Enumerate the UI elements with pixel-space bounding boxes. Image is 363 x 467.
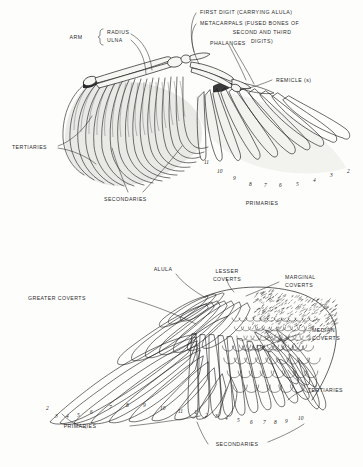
label-metacarpals-line2: SECOND AND THIRD [233,29,292,35]
figure-page: ARM RADIUS ULNA FIRST DIGIT (CARRYING AL… [0,0,363,467]
label-metacarpals-line1: METACARPALS (FUSED BONES OF [200,20,299,26]
secondary-number: 10 [298,415,304,421]
primary-number: 11 [178,408,183,414]
label-marginal-coverts-line1: MARGINAL [285,274,316,280]
primary-number: 10 [217,168,223,174]
label-phalanges: PHALANGES [210,40,246,46]
primary-number: 3 [329,172,333,178]
primary-number: 9 [233,175,236,181]
label-remicle: REMICLE (s) [276,77,312,83]
primary-number: 4 [66,413,69,419]
lower-primary-numbers: 2 3 4 5 6 7 8 9 10 11 [46,402,183,419]
label-secondaries-lower: SECONDARIES [216,441,259,447]
primary-number: 9 [143,402,146,408]
primary-number: 2 [347,168,350,174]
primary-number: 2 [46,405,49,411]
label-lesser-coverts-line1: LESSER [215,268,238,274]
label-alula: ALULA [154,266,173,272]
label-lesser-coverts-line2: COVERTS [213,276,241,282]
secondary-number: 3 [214,413,218,419]
secondary-number: 8 [274,419,277,425]
secondary-number: 6 [250,419,253,425]
label-secondaries-upper: SECONDARIES [104,196,147,202]
label-primaries-upper: PRIMARIES [246,200,279,206]
primary-number: 5 [77,412,80,418]
label-metacarpals-line3: DIGITS) [251,38,273,44]
secondary-number: 2 [205,412,208,418]
label-ulna: ULNA [107,37,123,43]
label-tertiaries-upper: TERTIARIES [12,144,47,150]
label-radius: RADIUS [107,29,129,35]
greater-coverts [118,301,250,365]
label-median-coverts-line1: MEDIAN [312,327,335,333]
lower-secondary-numbers: 1 2 3 4 5 6 7 8 9 10 [194,409,304,425]
primary-number: 8 [249,181,252,187]
label-arm: ARM [70,34,83,40]
primary-number: 4 [313,177,316,183]
primary-number: 10 [160,405,166,411]
primary-number: 6 [279,182,282,188]
primary-number: 7 [264,182,267,188]
secondary-number: 4 [225,415,228,421]
secondary-number: 1 [194,409,197,415]
secondary-number: 9 [285,418,288,424]
lower-figure-labels: ALULA LESSER COVERTS MARGINAL COVERTS GR… [28,266,343,447]
label-first-digit: FIRST DIGIT (CARRYING ALULA) [200,9,292,15]
lower-wing-figure: ALULA LESSER COVERTS MARGINAL COVERTS GR… [0,234,363,467]
primary-number: 6 [90,409,93,415]
secondary-number: 5 [237,417,240,423]
primary-number: 7 [109,404,112,410]
label-primaries-lower: PRIMARIES [64,423,97,429]
primary-number: 8 [126,402,129,408]
primary-number: 3 [54,413,58,419]
primary-number: 11 [204,159,209,165]
label-marginal-coverts-line2: COVERTS [285,282,313,288]
secondary-number: 7 [263,419,266,425]
label-greater-coverts: GREATER COVERTS [28,295,86,301]
label-median-coverts-line2: COVERTS [312,335,340,341]
label-tertiaries-lower: TERTIARIES [308,387,343,393]
upper-wing-figure: ARM RADIUS ULNA FIRST DIGIT (CARRYING AL… [0,0,363,234]
primary-number: 5 [296,181,299,187]
